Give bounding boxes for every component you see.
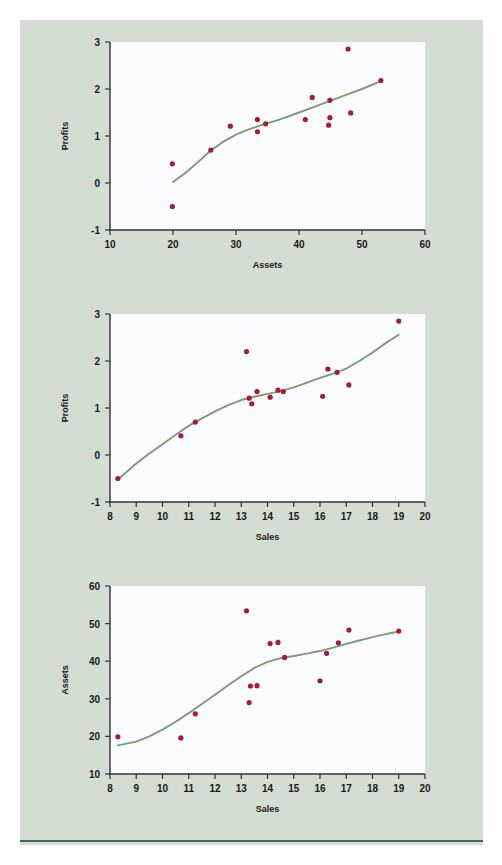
x-tick-label: 20 (167, 239, 179, 250)
y-tick-label: 40 (89, 656, 101, 667)
y-tick-label: 1 (94, 403, 100, 414)
data-point (346, 382, 351, 387)
clipped-header-text (34, 0, 234, 9)
data-point (396, 629, 401, 634)
y-tick-label: 10 (89, 769, 101, 780)
data-point (325, 366, 330, 371)
data-point (178, 735, 183, 740)
data-point (327, 98, 332, 103)
x-tick-label: 18 (367, 511, 379, 522)
x-tick-label: 12 (209, 511, 221, 522)
data-point (244, 608, 249, 613)
y-tick-label: 30 (89, 694, 101, 705)
data-point (346, 627, 351, 632)
x-tick-label: 40 (293, 239, 305, 250)
x-tick-label: 19 (393, 783, 405, 794)
scatter-plot-svg-0: 102030405060-10123AssetsProfits (20, 22, 483, 290)
x-tick-label: 12 (209, 783, 221, 794)
y-tick-label: 2 (94, 356, 100, 367)
data-point (320, 394, 325, 399)
y-tick-label: 50 (89, 619, 101, 630)
x-tick-label: 16 (314, 511, 326, 522)
data-point (303, 117, 308, 122)
x-tick-label: 11 (183, 783, 194, 794)
x-tick-label: 15 (288, 783, 300, 794)
x-tick-label: 30 (230, 239, 242, 250)
chart-sales-vs-assets: 891011121314151617181920102030405060Sale… (20, 566, 483, 834)
data-point (324, 651, 329, 656)
data-point (115, 476, 120, 481)
x-axis-title: Sales (256, 804, 280, 814)
x-tick-label: 10 (104, 239, 116, 250)
y-tick-label: 20 (89, 731, 101, 742)
data-point (336, 640, 341, 645)
data-point (327, 115, 332, 120)
x-axis-title: Assets (253, 260, 283, 270)
x-tick-label: 60 (419, 239, 431, 250)
y-tick-label: 60 (89, 581, 101, 592)
page-root: 102030405060-10123AssetsProfits 89101112… (0, 0, 502, 865)
data-point (115, 734, 120, 739)
x-tick-label: 14 (262, 511, 274, 522)
data-point (281, 389, 286, 394)
data-point (310, 95, 315, 100)
data-point (254, 389, 259, 394)
data-point (334, 370, 339, 375)
data-point (249, 401, 254, 406)
data-point (268, 641, 273, 646)
y-tick-label: -1 (91, 497, 100, 508)
data-point (317, 678, 322, 683)
data-point (247, 700, 252, 705)
data-point (193, 420, 198, 425)
y-axis-title: Assets (60, 665, 70, 695)
x-tick-label: 13 (236, 783, 248, 794)
x-axis-title: Sales (256, 532, 280, 542)
x-tick-label: 18 (367, 783, 379, 794)
x-tick-label: 17 (341, 783, 353, 794)
data-point (396, 318, 401, 323)
y-tick-label: 1 (94, 131, 100, 142)
data-point (378, 78, 383, 83)
data-point (268, 395, 273, 400)
footer-divider-rule (20, 840, 483, 842)
data-point (326, 123, 331, 128)
x-tick-label: 10 (157, 783, 169, 794)
scatter-plot-svg-1: 891011121314151617181920-10123SalesProfi… (20, 294, 483, 562)
data-point (282, 655, 287, 660)
scatter-plot-svg-2: 891011121314151617181920102030405060Sale… (20, 566, 483, 834)
data-point (275, 388, 280, 393)
data-point (346, 46, 351, 51)
x-tick-label: 15 (288, 511, 300, 522)
y-tick-label: 2 (94, 84, 100, 95)
data-point (248, 683, 253, 688)
x-tick-label: 20 (419, 511, 431, 522)
data-point (228, 124, 233, 129)
x-tick-label: 10 (157, 511, 169, 522)
data-point (193, 711, 198, 716)
x-tick-label: 17 (341, 511, 353, 522)
y-tick-label: 3 (94, 37, 100, 48)
data-point (263, 121, 268, 126)
data-point (208, 148, 213, 153)
x-tick-label: 50 (356, 239, 368, 250)
data-point (247, 396, 252, 401)
y-tick-label: 0 (94, 178, 100, 189)
data-point (254, 683, 259, 688)
y-axis-title: Profits (60, 394, 70, 423)
chart-sales-vs-profits: 891011121314151617181920-10123SalesProfi… (20, 294, 483, 562)
x-tick-label: 11 (183, 511, 194, 522)
data-point (170, 161, 175, 166)
x-tick-label: 13 (236, 511, 248, 522)
data-point (275, 640, 280, 645)
y-tick-label: 3 (94, 309, 100, 320)
x-tick-label: 9 (133, 511, 139, 522)
data-point (244, 349, 249, 354)
x-tick-label: 8 (107, 783, 113, 794)
data-point (348, 110, 353, 115)
chart-assets-vs-profits: 102030405060-10123AssetsProfits (20, 22, 483, 290)
data-point (170, 204, 175, 209)
x-tick-label: 9 (133, 783, 139, 794)
x-tick-label: 14 (262, 783, 274, 794)
x-tick-label: 20 (419, 783, 431, 794)
data-point (255, 129, 260, 134)
